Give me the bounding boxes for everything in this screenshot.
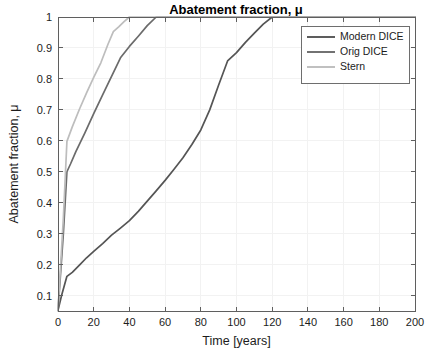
- x-tick-label: 40: [123, 316, 135, 328]
- y-axis-label: Abatement fraction, μ: [7, 104, 21, 223]
- y-tick-label: 0.8: [37, 73, 52, 85]
- y-tick-label: 1: [46, 11, 52, 23]
- x-tick-label: 100: [227, 316, 245, 328]
- chart-plot: Abatement fraction, μ 020406080100120140…: [0, 0, 427, 354]
- y-tick-label: 0.6: [37, 135, 52, 147]
- y-tick-label: 0.4: [37, 197, 52, 209]
- y-tick-label: 0.7: [37, 104, 52, 116]
- y-tick-label: 0.5: [37, 166, 52, 178]
- legend-label: Modern DICE: [340, 30, 404, 42]
- x-tick-label: 180: [370, 316, 388, 328]
- chart-title: Abatement fraction, μ: [169, 2, 303, 17]
- x-tick-label: 160: [334, 316, 352, 328]
- x-tick-label: 0: [55, 316, 61, 328]
- y-tick-label: 0.2: [37, 259, 52, 271]
- legend-label: Stern: [340, 60, 365, 72]
- x-tick-label: 20: [88, 316, 100, 328]
- x-tick-label: 120: [263, 316, 281, 328]
- legend[interactable]: Modern DICEOrig DICEStern: [301, 26, 409, 83]
- x-tick-label: 140: [299, 316, 317, 328]
- figure-canvas: Abatement fraction, μ 020406080100120140…: [0, 0, 427, 354]
- y-tick-label: 0.1: [37, 290, 52, 302]
- x-axis-label: Time [years]: [202, 334, 270, 348]
- y-tick-label: 0.9: [37, 42, 52, 54]
- legend-label: Orig DICE: [340, 45, 388, 57]
- y-tick-label: 0.3: [37, 228, 52, 240]
- x-tick-label: 200: [406, 316, 424, 328]
- x-tick-label: 80: [195, 316, 207, 328]
- x-tick-label: 60: [159, 316, 171, 328]
